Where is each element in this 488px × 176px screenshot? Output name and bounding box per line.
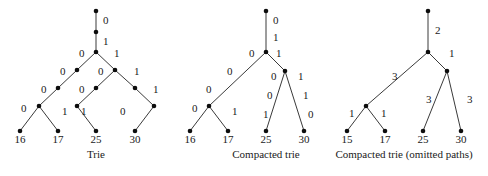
leaf-label-25: 25	[91, 133, 103, 145]
tree-node-R1	[113, 68, 118, 73]
edge-label: 0	[120, 105, 126, 117]
edge-a-L1	[209, 52, 266, 106]
edge-label: 1	[134, 65, 140, 77]
edge-label: 1	[273, 31, 279, 43]
tree-node-R5	[152, 104, 157, 109]
tree-node-a	[94, 30, 99, 35]
edge-label: 3	[392, 70, 398, 82]
edge-label: 1	[276, 47, 282, 59]
edge-label: 1	[263, 108, 269, 120]
edge-label: 0	[98, 65, 104, 77]
tree-node-a	[264, 50, 269, 55]
leaf-label-17: 17	[380, 133, 392, 145]
panel-compacted-trie: 0100001100111016172530Compacted trie	[185, 9, 315, 160]
edge-label: 0	[271, 70, 277, 82]
edge-label: 1	[303, 89, 309, 101]
leaf-label-17: 17	[223, 133, 235, 145]
edge-label: 0	[79, 83, 85, 95]
trie-diagram-canvas: 0100001100111016172530Trie01000011001110…	[0, 0, 488, 176]
edge-R1-R4	[115, 70, 135, 88]
edge-label: 1	[103, 35, 109, 47]
edge-R5-l30	[135, 106, 154, 131]
edge-L3-l17	[39, 106, 58, 131]
edge-label: 1	[449, 47, 455, 59]
edge-label: 0	[41, 83, 47, 95]
tree-node-L3	[37, 104, 42, 109]
leaf-label-16: 16	[15, 133, 27, 145]
edge-label: 0	[249, 47, 255, 59]
edge-label: 1	[232, 105, 238, 117]
tree-node-b	[94, 50, 99, 55]
tree-node-a	[426, 50, 431, 55]
panel-caption-trie: Trie	[87, 148, 105, 160]
panel-compacted-trie-omitted: 231113315172530Compacted trie (omitted p…	[335, 9, 473, 161]
edge-label: 1	[381, 107, 387, 119]
edge-label: 1	[153, 83, 159, 95]
edge-label: 0	[273, 14, 279, 26]
edge-label: 0	[21, 102, 27, 114]
edge-label: 1	[349, 107, 355, 119]
leaf-label-15: 15	[342, 133, 354, 145]
tree-node-r	[94, 9, 99, 14]
leaf-label-16: 16	[185, 133, 197, 145]
tree-node-L1	[364, 104, 369, 109]
tree-node-R4	[133, 86, 138, 91]
tree-node-L2	[56, 86, 61, 91]
edge-a-R1	[428, 52, 447, 71]
tree-node-r	[426, 9, 431, 14]
leaf-label-25: 25	[418, 133, 430, 145]
tree-node-r	[264, 9, 269, 14]
edge-label: 3	[426, 93, 432, 105]
edge-label: 0	[192, 102, 198, 114]
edge-label: 3	[467, 93, 473, 105]
leaf-label-30: 30	[456, 133, 468, 145]
edge-label: 0	[267, 89, 273, 101]
tree-node-R1	[445, 69, 450, 74]
panel-caption-compacted-trie-omitted: Compacted trie (omitted paths)	[335, 148, 472, 161]
panel-caption-compacted-trie: Compacted trie	[232, 148, 300, 160]
tree-node-R3	[75, 104, 80, 109]
panel-trie: 0100001100111016172530Trie	[15, 9, 159, 160]
edge-R3-l25	[77, 106, 96, 131]
leaf-label-17: 17	[53, 133, 65, 145]
edge-label: 1	[298, 70, 304, 82]
edge-label: 1	[62, 105, 68, 117]
edge-label: 1	[81, 105, 87, 117]
edge-label: 0	[60, 65, 66, 77]
edge-label: 0	[79, 47, 85, 59]
trie-figure: 0100001100111016172530Trie01000011001110…	[0, 0, 488, 176]
tree-node-L1	[207, 104, 212, 109]
edge-label: 1	[114, 47, 120, 59]
tree-node-R1	[283, 69, 288, 74]
edge-R1-l30	[447, 71, 461, 131]
leaf-label-30: 30	[130, 133, 142, 145]
edge-label: 0	[206, 83, 212, 95]
edge-label: 0	[308, 108, 314, 120]
leaf-label-30: 30	[299, 133, 311, 145]
edge-L1-l17	[209, 106, 228, 131]
leaf-label-25: 25	[261, 133, 273, 145]
tree-node-L1	[75, 68, 80, 73]
edge-R4-R5	[135, 88, 154, 106]
tree-node-R2	[94, 86, 99, 91]
edge-label: 0	[103, 14, 109, 26]
edge-label: 0	[227, 65, 233, 77]
edge-label: 2	[435, 24, 441, 36]
